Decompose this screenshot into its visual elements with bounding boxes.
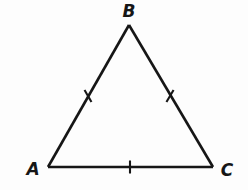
triangle-diagram: A B C: [0, 0, 248, 190]
vertex-label-a: A: [24, 159, 39, 179]
triangle-figure-container: A B C: [0, 0, 248, 190]
vertex-label-b: B: [123, 1, 136, 21]
vertex-label-c: C: [221, 160, 234, 180]
